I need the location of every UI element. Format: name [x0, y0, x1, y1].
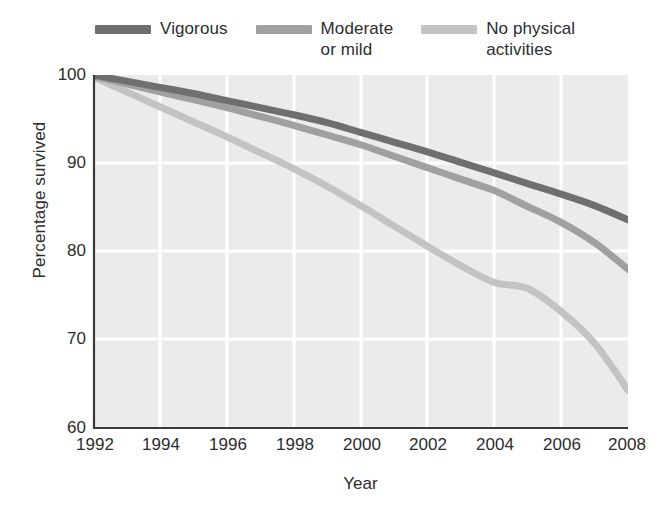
x-tick-2004: 2004 [460, 435, 530, 455]
x-tick-1996: 1996 [193, 435, 263, 455]
x-tick-2002: 2002 [393, 435, 463, 455]
x-tick-2000: 2000 [327, 435, 397, 455]
x-tick-2006: 2006 [527, 435, 597, 455]
x-tick-1992: 1992 [60, 435, 130, 455]
y-axis-title: Percentage survived [30, 75, 50, 325]
chart-figure: Vigorous Moderate or mild No physical ac… [0, 0, 669, 509]
x-tick-1998: 1998 [260, 435, 330, 455]
x-tick-1994: 1994 [126, 435, 196, 455]
x-axis-title: Year [93, 474, 628, 494]
x-axis-tick-labels: 1992 1994 1996 1998 2000 2002 2004 2006 … [0, 0, 669, 509]
x-tick-2008: 2008 [592, 435, 662, 455]
